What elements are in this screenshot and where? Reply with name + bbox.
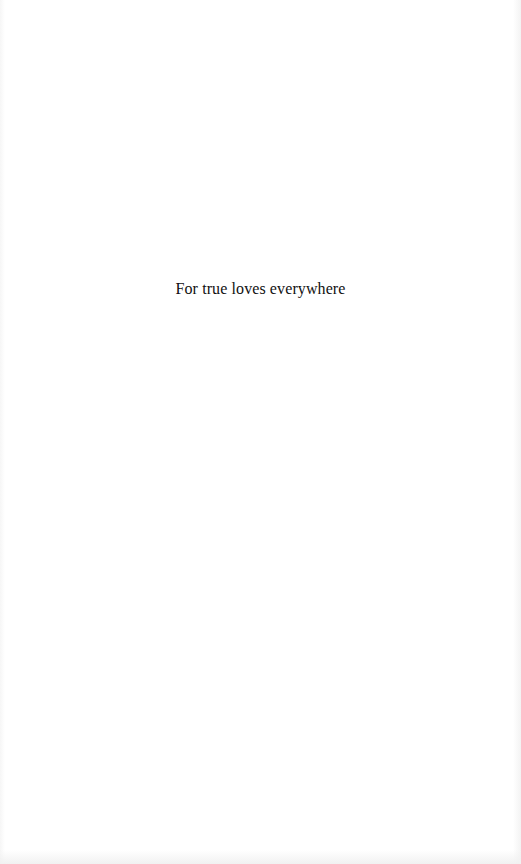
dedication-text: For true loves everywhere	[0, 279, 521, 299]
scan-edge-bottom	[0, 850, 521, 864]
scan-edge-right	[513, 0, 521, 864]
book-page: For true loves everywhere	[0, 0, 521, 864]
scan-edge-left	[0, 0, 5, 864]
